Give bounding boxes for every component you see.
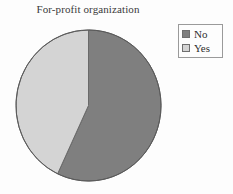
pie-chart-svg <box>15 29 162 182</box>
legend-swatch-yes <box>182 44 190 52</box>
legend-item-yes[interactable]: Yes <box>182 41 219 55</box>
pie-chart <box>15 29 162 182</box>
legend-label-no: No <box>194 28 207 40</box>
chart-screenshot: For-profit organization No Yes <box>0 0 233 194</box>
chart-legend: No Yes <box>178 24 223 58</box>
legend-swatch-no <box>182 30 190 38</box>
chart-title: For-profit organization <box>14 2 162 16</box>
legend-item-no[interactable]: No <box>182 27 219 41</box>
pie-slices <box>16 30 161 181</box>
legend-label-yes: Yes <box>194 42 210 54</box>
